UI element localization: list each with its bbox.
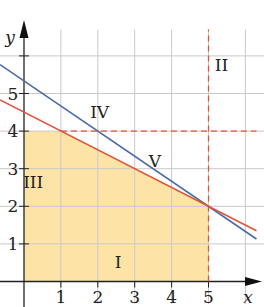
- region-label-IV: IV: [90, 102, 110, 122]
- region-label-V: V: [148, 151, 162, 171]
- x-tick-label: 1: [55, 287, 66, 307]
- x-tick-label: 3: [129, 287, 140, 307]
- x-axis-arrow-icon: [245, 277, 262, 286]
- x-tick-label: 5: [203, 287, 214, 307]
- region-label-I: I: [115, 252, 122, 272]
- y-tick-label: 1: [8, 234, 19, 254]
- x-tick-label: 2: [92, 287, 103, 307]
- y-tick-label: 5: [8, 84, 19, 104]
- y-tick-label: 2: [8, 196, 19, 216]
- y-tick-label: 4: [8, 121, 19, 141]
- y-axis-arrow-icon: [20, 20, 29, 38]
- y-tick-label: 3: [8, 159, 19, 179]
- y-axis-label: y: [4, 27, 15, 47]
- chart: 1234512345xyIIIIIIIVV: [0, 0, 264, 307]
- x-tick-label: 4: [166, 287, 177, 307]
- region-label-III: III: [23, 172, 43, 192]
- region-label-II: II: [215, 55, 228, 75]
- x-axis-label: x: [243, 287, 253, 307]
